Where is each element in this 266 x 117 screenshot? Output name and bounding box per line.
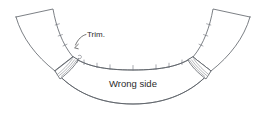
right-arm-panel [193,9,250,71]
right-arm-outline [193,9,250,71]
left-arm-outline [16,9,73,71]
trim-label: Trim. [87,30,105,39]
sewing-diagram-canvas: Trim. Wrong side [0,0,266,117]
trim-callout-leader [75,35,86,49]
pivot-loop [78,55,81,59]
trim-leader-line [76,35,87,46]
left-arm-panel [16,9,73,71]
wrong-side-label: Wrong side [109,78,157,89]
sewing-construction-diagram: Trim. Wrong side [0,0,266,117]
